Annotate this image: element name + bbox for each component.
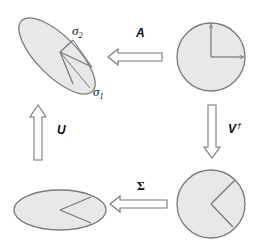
arrow-a-label: A xyxy=(135,26,145,40)
arrow-u-label: U xyxy=(57,123,66,137)
arrow-u xyxy=(30,105,46,160)
rotated-circle xyxy=(177,170,245,238)
arrow-vt xyxy=(204,105,220,158)
final-ellipse xyxy=(8,7,107,106)
scaled-ellipse xyxy=(14,190,106,230)
arrow-sigma-label: Σ xyxy=(137,179,145,193)
arrow-sigma xyxy=(110,196,167,212)
sigma1-label: σ1 xyxy=(93,84,103,101)
unit-circle xyxy=(177,23,245,91)
sigma2-label: σ2 xyxy=(72,23,82,40)
arrow-vt-label: V† xyxy=(228,121,242,136)
svd-diagram: σ2 σ1 A V† Σ U xyxy=(0,0,259,249)
arrow-a xyxy=(108,49,162,65)
